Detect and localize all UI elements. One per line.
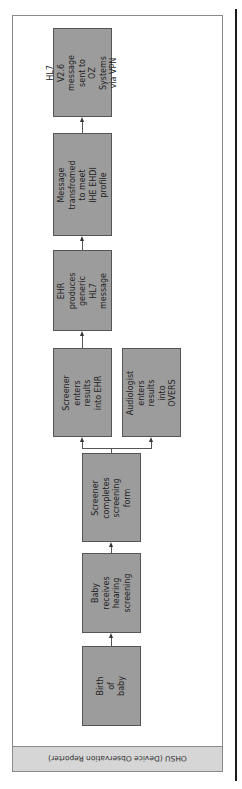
node-screener-ehr: Screener enters results into EHR (53, 348, 112, 437)
swimlane-header: OHSU (Device Observation Reporter) (12, 746, 223, 772)
node-label: Screener enters results into EHR (62, 375, 104, 411)
node-audiologist-overs: Audiologist enters results into OVERS (122, 348, 181, 437)
node-birth: Birth of baby (82, 646, 141, 726)
swimlane-label: OHSU (Device Observation Reporter) (13, 747, 222, 771)
node-hearing-screening: Baby receives hearing screening (82, 553, 141, 633)
node-label: Birth of baby (96, 672, 128, 701)
arrow-up-icon (109, 633, 113, 638)
arrow-up-icon (80, 437, 84, 442)
connector-line (82, 448, 152, 449)
connector-line (82, 336, 83, 348)
node-screening-form: Screener completes screening form (82, 453, 141, 542)
connector-line (111, 638, 112, 646)
node-label: Message transfromed to meet IHE EHDI pro… (56, 160, 109, 209)
page-rule (235, 9, 237, 781)
connector-line (82, 122, 83, 133)
arrow-up-icon (80, 331, 84, 336)
node-label: Audiologist enters results into OVERS (125, 370, 178, 414)
node-transform-ihe: Message transfromed to meet IHE EHDI pro… (53, 133, 112, 236)
node-label: Baby receives hearing screening (91, 574, 133, 613)
node-ehr-hl7: EHR produces generic HL7 message (53, 250, 112, 331)
node-label: Screener completes screening form (91, 477, 133, 519)
connector-line (82, 241, 83, 250)
connector-line (82, 442, 83, 449)
arrow-up-icon (149, 437, 153, 442)
connector-line (111, 547, 112, 553)
arrow-up-icon (80, 236, 84, 241)
connector-line (151, 442, 152, 449)
arrow-up-icon (80, 117, 84, 122)
node-label: EHR produces generic HL7 message (56, 272, 109, 309)
arrow-up-icon (109, 542, 113, 547)
node-send-vpn: HL7 V2.6 message sent to OZ Systems via … (53, 28, 112, 117)
node-label: HL7 V2.6 message sent to OZ Systems via … (46, 55, 120, 91)
